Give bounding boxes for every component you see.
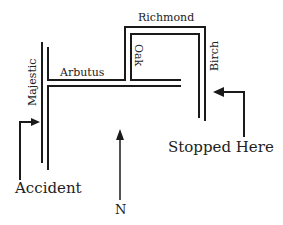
stopped-here-arrow-icon: [213, 87, 244, 137]
street-label-birch: Birch: [208, 41, 221, 71]
accident-arrow-icon: [20, 118, 40, 180]
street-label-oak: Oak: [132, 44, 145, 67]
street-map-diagram: Majestic Arbutus Oak Richmond Birch Acci…: [0, 0, 283, 225]
majestic-street-east-edge: [48, 86, 181, 170]
stopped-here-label: Stopped Here: [168, 138, 274, 156]
street-label-majestic: Majestic: [26, 59, 39, 107]
north-arrow-icon: [116, 129, 124, 200]
street-label-richmond: Richmond: [138, 11, 194, 24]
street-label-arbutus: Arbutus: [59, 66, 105, 79]
north-label: N: [115, 202, 126, 217]
accident-label: Accident: [14, 179, 82, 197]
